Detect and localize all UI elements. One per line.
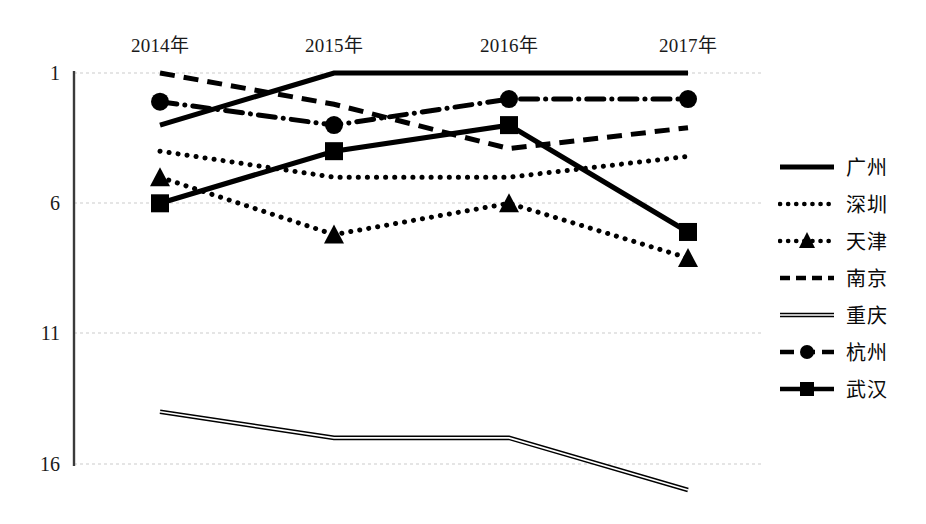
legend-label-nanjing: 南京 bbox=[846, 263, 888, 292]
legend-swatch-dotted-triangle bbox=[778, 228, 836, 254]
legend-label-shenzhen: 深圳 bbox=[846, 189, 888, 218]
legend-label-chongqing: 重庆 bbox=[846, 300, 888, 329]
series-重庆 bbox=[160, 412, 688, 490]
series-深圳 bbox=[160, 151, 688, 177]
legend-swatch-dotted bbox=[778, 191, 836, 217]
legend-label-tianjin: 天津 bbox=[846, 226, 888, 255]
legend-item-tianjin[interactable]: 天津 bbox=[778, 222, 926, 259]
legend-label-hangzhou: 杭州 bbox=[846, 337, 888, 366]
legend-item-hangzhou[interactable]: 杭州 bbox=[778, 333, 926, 370]
legend-item-chongqing[interactable]: 重庆 bbox=[778, 296, 926, 333]
legend-swatch-dashed bbox=[778, 265, 836, 291]
line-chart: 2014年 2015年 2016年 2017年 1 6 11 16 广州 bbox=[0, 0, 926, 524]
series-广州 bbox=[160, 73, 688, 125]
chart-legend: 广州 深圳 天津 南京 重庆 bbox=[778, 148, 926, 407]
legend-item-guangzhou[interactable]: 广州 bbox=[778, 148, 926, 185]
legend-item-nanjing[interactable]: 南京 bbox=[778, 259, 926, 296]
legend-swatch-dash-dot-circle bbox=[778, 339, 836, 365]
legend-label-wuhan: 武汉 bbox=[846, 374, 888, 403]
legend-swatch-solid-thick bbox=[778, 154, 836, 180]
series-layer bbox=[150, 73, 698, 490]
legend-label-guangzhou: 广州 bbox=[846, 152, 888, 181]
legend-swatch-solid-square bbox=[778, 376, 836, 402]
legend-swatch-thin-double bbox=[778, 302, 836, 328]
legend-item-shenzhen[interactable]: 深圳 bbox=[778, 185, 926, 222]
legend-item-wuhan[interactable]: 武汉 bbox=[778, 370, 926, 407]
